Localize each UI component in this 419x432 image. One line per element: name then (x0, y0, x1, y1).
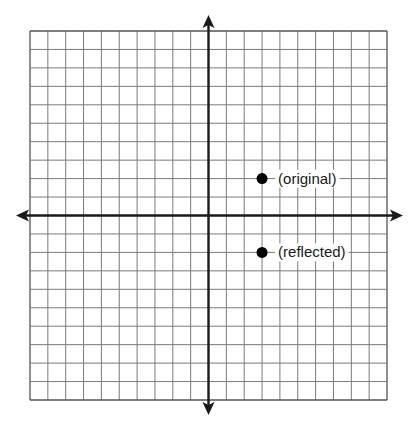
coordinate-plane: (original) (reflected) (0, 0, 419, 432)
point-original-dot (257, 173, 268, 184)
axes (16, 15, 403, 415)
point-reflected-dot (257, 247, 268, 258)
point-original-label: (original) (278, 170, 336, 187)
point-reflected-label: (reflected) (278, 243, 346, 260)
